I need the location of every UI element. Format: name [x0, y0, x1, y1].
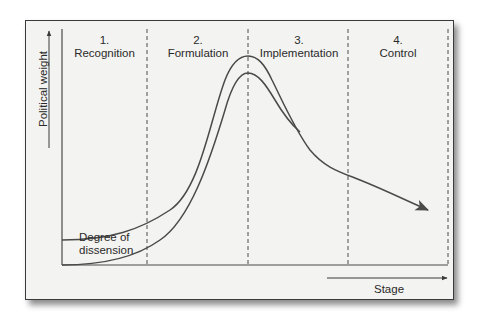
stage-name: Implementation: [258, 47, 340, 60]
stage-number: 2.: [163, 34, 233, 47]
stage-name: Formulation: [163, 47, 233, 60]
stage-name: Recognition: [72, 47, 137, 60]
stage-number: 1.: [72, 34, 137, 47]
stage-label-formulation: 2. Formulation: [163, 34, 233, 60]
stage-label-control: 4. Control: [368, 34, 428, 60]
stage-label-recognition: 1. Recognition: [72, 34, 137, 60]
dissension-label: Degree of dissension: [79, 231, 159, 257]
y-axis-title: Political weight: [37, 51, 49, 127]
stage-name: Control: [368, 47, 428, 60]
x-axis-title: Stage: [374, 283, 404, 295]
political-weight-curve: [62, 56, 428, 240]
stage-number: 4.: [368, 34, 428, 47]
stage-label-implementation: 3. Implementation: [258, 34, 340, 60]
stage-number: 3.: [258, 34, 340, 47]
